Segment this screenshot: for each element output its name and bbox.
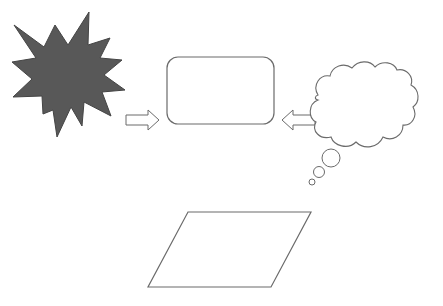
thought-cloud-icon xyxy=(310,62,418,147)
rounded-rectangle-shape[interactable] xyxy=(167,57,274,124)
thought-bubble-medium-icon xyxy=(314,167,325,178)
thought-bubble-large-icon xyxy=(322,149,340,167)
right-arrow-shape[interactable] xyxy=(126,110,159,130)
thought-cloud-shape[interactable] xyxy=(309,62,418,185)
explosion-star-shape[interactable] xyxy=(12,12,125,137)
parallelogram-shape[interactable] xyxy=(148,212,311,287)
diagram-canvas xyxy=(0,0,443,306)
explosion-star-icon xyxy=(12,12,125,137)
thought-bubble-small-icon xyxy=(309,179,315,185)
rounded-rectangle-icon xyxy=(167,57,274,124)
parallelogram-icon xyxy=(148,212,311,287)
right-arrow-icon xyxy=(126,110,159,130)
